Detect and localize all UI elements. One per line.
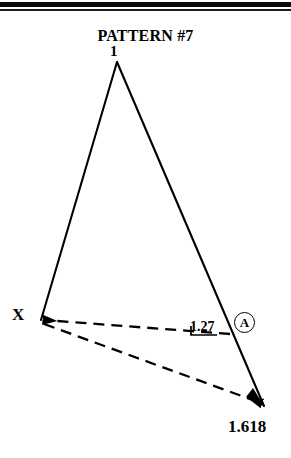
pattern-figure — [0, 0, 291, 458]
pattern-diagram-page: PATTERN #7 1 X 1.27 1.618 A — [0, 0, 291, 458]
right-leg-line — [117, 62, 264, 406]
x-point-label: X — [12, 306, 24, 323]
marker-a-label: A — [235, 315, 254, 331]
left-leg-line — [41, 62, 117, 320]
ratio-1618-label: 1.618 — [228, 418, 266, 435]
dashed-leg-1618-line — [44, 324, 261, 403]
arrowhead-end-point — [246, 388, 264, 406]
ratio-127-label: 1.27 — [190, 320, 215, 334]
apex-label: 1 — [110, 44, 118, 59]
marker-a-circle: A — [234, 312, 255, 333]
